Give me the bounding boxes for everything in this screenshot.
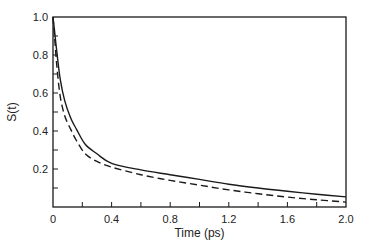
x-tick-label: 0.4 (104, 213, 119, 225)
y-tick-label: 0.4 (33, 125, 48, 137)
plot-frame (53, 17, 346, 207)
x-tick-label: 0.8 (163, 213, 178, 225)
axis-ticks (53, 36, 317, 207)
y-tick-label: 1.0 (33, 11, 48, 23)
series-lines (53, 17, 346, 202)
chart: 00.40.81.21.62.0 0.20.40.60.81.0 Time (p… (0, 0, 370, 252)
x-tick-label: 2.0 (338, 213, 353, 225)
x-tick-labels: 00.40.81.21.62.0 (50, 213, 354, 225)
x-tick-label: 1.6 (280, 213, 295, 225)
series-solid-line (53, 17, 346, 197)
y-tick-label: 0.6 (33, 87, 48, 99)
series-dashed-line (53, 17, 346, 202)
y-tick-label: 0.2 (33, 163, 48, 175)
y-tick-labels: 0.20.40.60.81.0 (33, 11, 48, 175)
x-tick-label: 0 (50, 213, 56, 225)
y-axis-title: S(t) (5, 102, 19, 121)
y-tick-label: 0.8 (33, 49, 48, 61)
x-axis-title: Time (ps) (174, 226, 224, 240)
x-tick-label: 1.2 (221, 213, 236, 225)
